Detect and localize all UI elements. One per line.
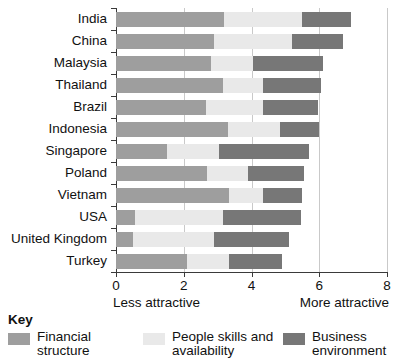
stacked-bar[interactable]	[116, 122, 319, 137]
y-tick-mark	[111, 272, 116, 273]
category-label: China	[0, 33, 107, 48]
stacked-bar[interactable]	[116, 56, 323, 71]
bar-segment-people[interactable]	[223, 78, 264, 93]
category-label: India	[0, 11, 107, 26]
bar-segment-people[interactable]	[211, 56, 253, 71]
stacked-bar[interactable]	[116, 254, 282, 269]
category-label: Indonesia	[0, 121, 107, 136]
x-tick-mark	[319, 272, 320, 277]
bar-segment-business[interactable]	[229, 254, 282, 269]
stacked-bar[interactable]	[116, 100, 318, 115]
legend-label: People skills and availability	[172, 330, 283, 358]
stacked-bar[interactable]	[116, 232, 289, 247]
category-label: Brazil	[0, 99, 107, 114]
bar-segment-financial[interactable]	[116, 56, 211, 71]
bar-segment-financial[interactable]	[116, 232, 133, 247]
category-label: Thailand	[0, 77, 107, 92]
stacked-bar[interactable]	[116, 12, 351, 27]
x-tick-mark	[252, 272, 253, 277]
bar-segment-financial[interactable]	[116, 34, 214, 49]
bar-segment-financial[interactable]	[116, 188, 229, 203]
stacked-bar[interactable]	[116, 210, 301, 225]
stacked-bar[interactable]	[116, 188, 302, 203]
bar-segment-people[interactable]	[229, 188, 263, 203]
bar-segment-business[interactable]	[280, 122, 319, 137]
legend-title: Key	[8, 312, 399, 327]
bar-segment-business[interactable]	[219, 144, 309, 159]
bar-segment-financial[interactable]	[116, 12, 224, 27]
stacked-bar[interactable]	[116, 144, 309, 159]
axis-label-less-attractive: Less attractive	[113, 295, 200, 310]
legend-items: Financial structurePeople skills and ava…	[8, 330, 399, 358]
category-label: Poland	[0, 165, 107, 180]
bar-segment-people[interactable]	[187, 254, 229, 269]
bar-segment-financial[interactable]	[116, 210, 135, 225]
x-tick-label: 2	[169, 278, 199, 293]
category-label: Vietnam	[0, 187, 107, 202]
legend-item[interactable]: People skills and availability	[143, 330, 283, 358]
bar-segment-people[interactable]	[167, 144, 220, 159]
bar-segment-financial[interactable]	[116, 166, 207, 181]
legend-swatch	[143, 333, 165, 345]
bar-segment-people[interactable]	[206, 100, 264, 115]
bar-segment-financial[interactable]	[116, 100, 206, 115]
bar-segment-financial[interactable]	[116, 254, 187, 269]
bar-segment-people[interactable]	[224, 12, 302, 27]
category-label: USA	[0, 209, 107, 224]
bar-segment-business[interactable]	[263, 78, 321, 93]
stacked-bar[interactable]	[116, 78, 321, 93]
legend-swatch	[283, 333, 305, 345]
category-label: United Kingdom	[0, 231, 107, 246]
bar-segment-people[interactable]	[207, 166, 248, 181]
bar-segment-financial[interactable]	[116, 144, 167, 159]
bar-segment-business[interactable]	[223, 210, 301, 225]
bar-segment-financial[interactable]	[116, 78, 223, 93]
bar-segment-people[interactable]	[135, 210, 223, 225]
legend-label: Business environment	[312, 330, 399, 358]
bar-segment-business[interactable]	[292, 34, 343, 49]
bar-segment-business[interactable]	[263, 188, 302, 203]
x-tick-label: 6	[304, 278, 334, 293]
category-label: Singapore	[0, 143, 107, 158]
stacked-bar[interactable]	[116, 166, 304, 181]
bar-segment-business[interactable]	[248, 166, 304, 181]
bar-segment-people[interactable]	[214, 34, 292, 49]
legend-item[interactable]: Business environment	[283, 330, 399, 358]
x-tick-label: 0	[101, 278, 131, 293]
category-label: Turkey	[0, 253, 107, 268]
bar-segment-business[interactable]	[263, 100, 317, 115]
axis-label-more-attractive: More attractive	[300, 295, 389, 310]
x-tick-label: 4	[237, 278, 267, 293]
bar-segment-business[interactable]	[253, 56, 322, 71]
legend-label: Financial structure	[37, 330, 143, 358]
stacked-bar[interactable]	[116, 34, 343, 49]
x-tick-label: 8	[372, 278, 399, 293]
legend: Key Financial structurePeople skills and…	[8, 312, 399, 358]
legend-item[interactable]: Financial structure	[8, 330, 143, 358]
x-tick-mark	[387, 272, 388, 277]
category-label: Malaysia	[0, 55, 107, 70]
bar-segment-people[interactable]	[133, 232, 214, 247]
bar-segment-people[interactable]	[228, 122, 281, 137]
bar-segment-business[interactable]	[302, 12, 351, 27]
x-tick-mark	[184, 272, 185, 277]
bar-segment-business[interactable]	[214, 232, 289, 247]
bar-segment-financial[interactable]	[116, 122, 228, 137]
legend-swatch	[8, 333, 30, 345]
x-tick-mark	[116, 272, 117, 277]
